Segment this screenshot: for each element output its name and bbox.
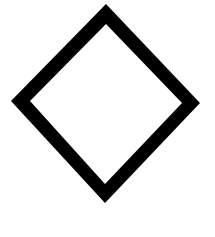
- diagram-canvas: [0, 0, 215, 237]
- diamond-shape: [0, 0, 215, 237]
- diamond-inner-fill: [30, 24, 182, 184]
